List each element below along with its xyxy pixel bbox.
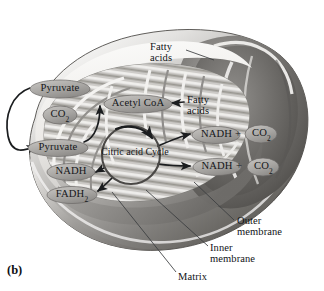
molecule-label-pyruvate-outer: Pyruvate [30,82,90,93]
callout-outer-membrane: Outer membrane [237,216,282,238]
figure-label: (b) [7,263,22,278]
callout-matrix-line-1: Matrix [178,272,207,283]
callout-fatty-acids-top-line-2: acids [150,53,172,64]
molecule-label-pyruvate-inner: Pyruvate [28,141,88,152]
molecule-label-co2-upper-left: CO2 [43,108,77,119]
molecule-label-acetyl-coa: Acetyl CoA [104,97,172,108]
molecule-label-nadh-left: NADH [47,165,95,176]
callout-inner-membrane-line-2: membrane [210,254,255,265]
arrow-fattyacids-to-acetylcoa [172,102,184,103]
citric-acid-cycle-label: Citric acid Cycle [101,146,161,157]
callout-fatty-acids-inner-line-2: acids [187,106,209,117]
callout-matrix: Matrix [178,272,207,283]
plus-sign-upper-right: + [235,128,241,139]
molecule-label-co2-upper-right: CO2 [245,127,278,138]
molecule-label-fadh2-left: FADH2 [47,188,97,199]
molecule-label-nadh-lower-right: NADH [193,160,241,171]
cycle-line-2: Cycle [145,146,168,157]
molecule-label-nadh-upper-right: NADH [193,128,240,139]
plus-sign-lower-right: + [236,160,242,171]
cycle-line-1: Citric acid [101,146,143,157]
molecule-label-co2-lower-right: CO2 [247,160,280,171]
callout-fatty-acids-inner: Fatty acids [187,95,209,117]
callout-inner-membrane: Inner membrane [210,243,255,265]
mitochondrion-figure: Pyruvate CO2 Pyruvate Acetyl CoA NADH FA… [0,0,324,291]
callout-outer-membrane-line-2: membrane [237,227,282,238]
callout-fatty-acids-top: Fatty acids [150,42,172,64]
